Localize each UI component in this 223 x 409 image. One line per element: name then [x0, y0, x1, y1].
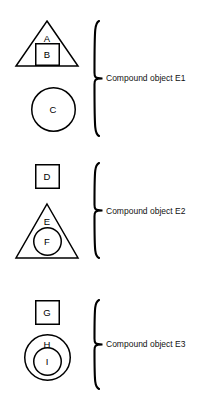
square-g-letter: G — [38, 307, 56, 319]
circle-i-letter: I — [38, 356, 56, 368]
circle-i: I — [30, 344, 65, 379]
bracket-stroke — [94, 300, 102, 389]
group-label-3: Compound object E3 — [106, 340, 185, 349]
square-g: G — [32, 297, 63, 328]
diagram-canvas: ABCCompound object E1DEFCompound object … — [0, 0, 223, 409]
group-bracket — [92, 299, 104, 390]
compound-object-group-3: GHICompound object E3 — [0, 0, 223, 409]
